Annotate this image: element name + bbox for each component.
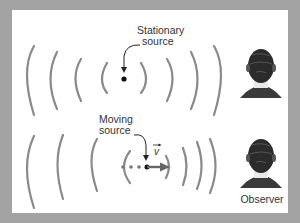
moving-label-line2: source	[99, 125, 133, 136]
moving-source-label: Moving source	[99, 114, 133, 136]
stationary-label-line2: source	[137, 36, 184, 47]
velocity-symbol: v	[154, 146, 159, 157]
stationary-source-label: Stationary source	[137, 25, 184, 47]
stationary-source-dot	[121, 76, 126, 81]
moving-source-trail	[121, 165, 141, 169]
observer-label: Observer	[236, 194, 288, 205]
doppler-diagram: Stationary source Moving source v Observ…	[0, 0, 300, 223]
